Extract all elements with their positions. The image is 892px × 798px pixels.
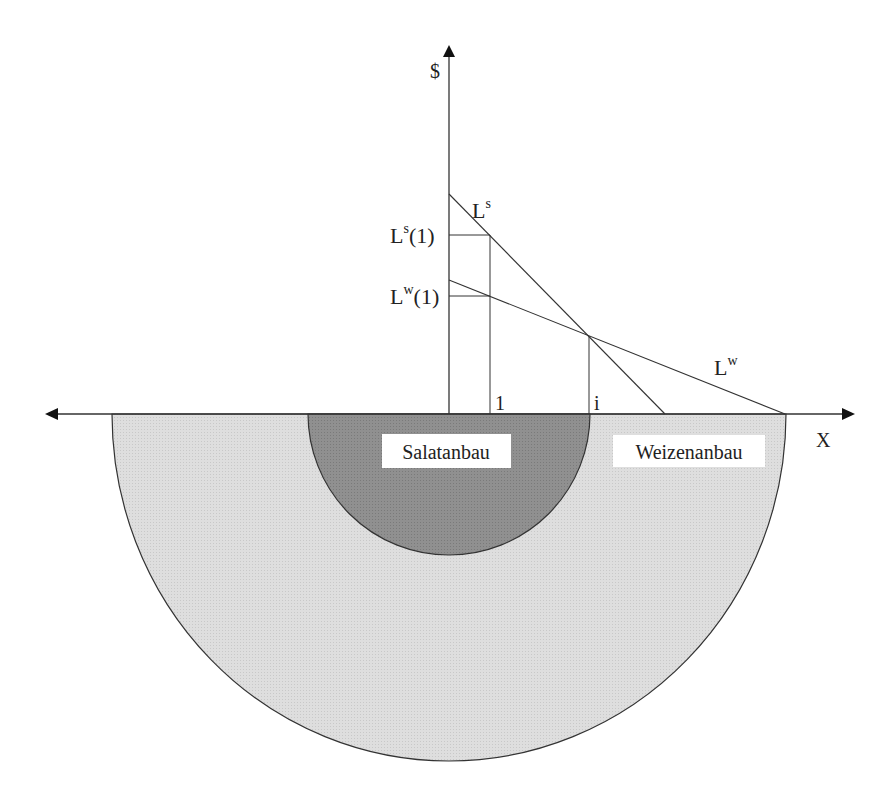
ls-line-label: Ls (472, 196, 491, 223)
rent-diagram: Salatanbau Weizenanbau X $ Ls Lw Ls(1) L… (0, 0, 892, 798)
x-axis-right-arrow (842, 408, 855, 420)
lw1-label: Lw(1) (390, 282, 439, 309)
y-axis-label: $ (430, 60, 440, 82)
x-axis-label: X (816, 429, 831, 451)
y-axis-arrow (443, 45, 455, 57)
weizenanbau-label: Weizenanbau (635, 441, 742, 463)
ls-line (449, 194, 665, 414)
lw-line-label: Lw (714, 353, 738, 380)
salatanbau-label: Salatanbau (402, 441, 490, 463)
tick-i-label: i (594, 392, 600, 414)
x-axis-left-arrow (45, 408, 58, 420)
ls1-label: Ls(1) (390, 221, 435, 248)
tick-one-label: 1 (495, 392, 505, 414)
